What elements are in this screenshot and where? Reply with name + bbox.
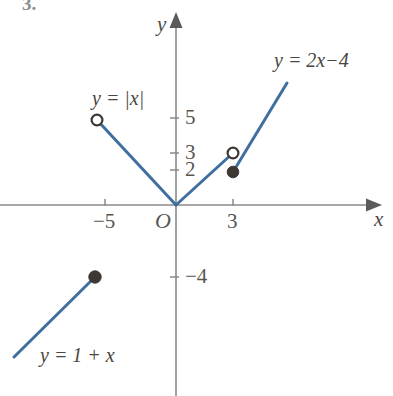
x-axis-label: x (374, 209, 383, 230)
y-axis-ticks (170, 118, 179, 277)
curve-label-linear-lower: y = 1 + x (40, 345, 115, 365)
x-tick-label-3: 3 (227, 211, 238, 232)
curve-label-linear-upper: y = 2x−4 (274, 50, 349, 70)
open-point-3-3 (228, 148, 239, 159)
closed-point-3-2 (227, 166, 239, 178)
x-axis (0, 199, 382, 212)
graph-figure: 3. y x O −5 3 5 3 2 −4 y = |x| y = 2x−4 … (0, 0, 393, 396)
open-point-minus5-5 (92, 115, 103, 126)
curve-linear-upper (233, 83, 287, 172)
x-tick-label-minus5: −5 (93, 211, 115, 232)
origin-label: O (155, 210, 171, 232)
curve-label-abs-value: y = |x| (92, 88, 144, 108)
curve-abs-left-branch (97, 120, 176, 205)
y-axis-label: y (157, 14, 166, 35)
problem-number: 3. (22, 0, 36, 12)
y-tick-label-2: 2 (185, 159, 196, 180)
y-tick-label-5: 5 (185, 107, 196, 128)
y-tick-label-minus4: −4 (185, 266, 207, 287)
closed-point-minus5-minus4 (89, 271, 101, 283)
